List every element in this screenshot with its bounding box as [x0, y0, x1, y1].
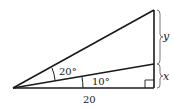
triangle-diagram: 20° 10° 20 y x [0, 0, 174, 107]
segment-label-y: y [162, 30, 170, 43]
angle-label-20: 20° [59, 66, 77, 77]
right-angle-marker [145, 80, 154, 88]
angle-label-10: 10° [92, 76, 110, 87]
segment-label-x: x [163, 70, 170, 83]
base-label: 20 [83, 94, 96, 105]
angle-arc-20 [52, 68, 55, 80]
angle-arc-10 [82, 77, 83, 88]
